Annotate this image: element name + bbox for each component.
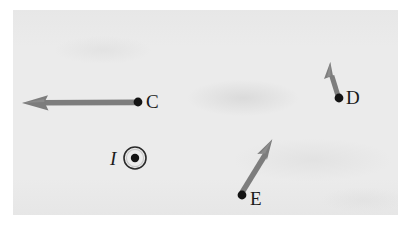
point-label-E: E xyxy=(250,189,262,208)
point-label-C: C xyxy=(146,92,159,111)
current-symbol-dot xyxy=(131,154,139,162)
vector-arrow-D xyxy=(324,62,341,98)
current-label-I: I xyxy=(110,149,116,168)
vector-arrow-E xyxy=(240,139,273,194)
point-label-D: D xyxy=(346,88,360,107)
vector-arrow-C-head xyxy=(22,95,49,110)
point-dot-C xyxy=(134,98,143,107)
current-out-of-page-icon xyxy=(124,147,146,169)
vector-diagram-canvas xyxy=(0,0,398,228)
vector-arrow-C xyxy=(22,95,136,110)
point-dot-E xyxy=(238,191,247,200)
point-dot-D xyxy=(335,94,344,103)
figure-root: C D E I xyxy=(0,0,398,228)
vector-arrow-C-shaft xyxy=(42,100,136,106)
